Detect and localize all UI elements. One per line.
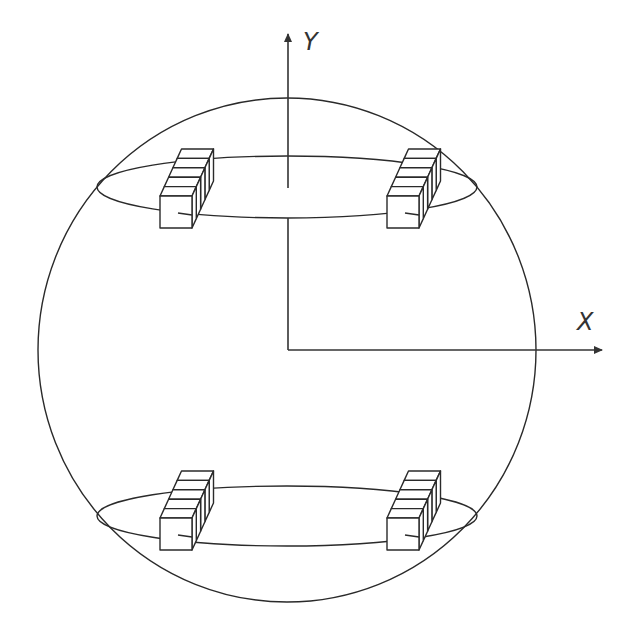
cube-front-face	[387, 518, 419, 550]
sphere-diagram	[0, 0, 636, 643]
slab-top-face	[396, 168, 432, 177]
lower-left-module	[160, 471, 214, 550]
slab-top-face	[404, 149, 440, 158]
slab-top-face	[169, 490, 205, 499]
cube-front-face	[387, 196, 419, 228]
cube-front-face	[160, 518, 192, 550]
slab-top-face	[400, 480, 436, 489]
slab-top-face	[391, 499, 427, 508]
slab-top-face	[391, 177, 427, 186]
slab-top-face	[387, 509, 423, 518]
slab-top-face	[177, 471, 213, 480]
slab-top-face	[160, 509, 196, 518]
slab-top-face	[404, 471, 440, 480]
x-axis-label: X	[577, 308, 593, 336]
slab-top-face	[164, 499, 200, 508]
cube-front-face	[160, 196, 192, 228]
slab-top-face	[164, 177, 200, 186]
upper-left-module	[160, 149, 214, 228]
slab-top-face	[400, 158, 436, 167]
slab-top-face	[177, 149, 213, 158]
slab-top-face	[160, 187, 196, 196]
slab-top-face	[173, 158, 209, 167]
y-axis-label: Y	[303, 28, 318, 56]
lower-right-module	[387, 471, 441, 550]
slab-top-face	[396, 490, 432, 499]
slab-top-face	[387, 187, 423, 196]
slab-top-face	[169, 168, 205, 177]
slab-top-face	[173, 480, 209, 489]
